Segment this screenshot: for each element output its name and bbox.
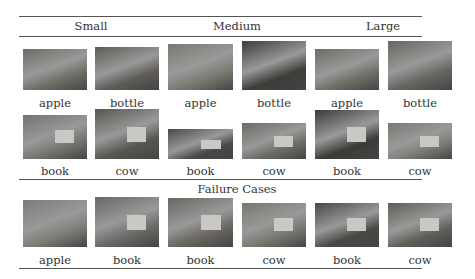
bottom-rule — [19, 268, 422, 269]
photo-bottle — [388, 41, 452, 90]
photo-apple — [315, 49, 379, 90]
header-rule — [19, 36, 422, 37]
adversarial-patch — [127, 127, 146, 142]
adversarial-patch — [347, 127, 366, 142]
section-rule — [19, 179, 422, 180]
photo-book — [95, 197, 159, 247]
adversarial-patch — [201, 215, 221, 230]
photo-apple — [23, 200, 87, 247]
adversarial-patch — [347, 218, 366, 231]
image-label: book — [92, 253, 162, 267]
photo-apple — [168, 44, 233, 90]
image-label: book — [166, 253, 236, 267]
failure-cases-title: Failure Cases — [164, 182, 310, 196]
photo-cow — [242, 203, 306, 247]
image-label: apple — [20, 253, 90, 267]
photo-apple — [23, 49, 87, 90]
image-label: cow — [385, 164, 455, 178]
adversarial-patch — [201, 140, 221, 149]
header-large: Large — [310, 19, 456, 33]
adversarial-patch — [274, 218, 293, 231]
image-label: book — [312, 164, 382, 178]
header-small: Small — [18, 19, 164, 33]
top-rule-right — [221, 16, 422, 17]
photo-bottle — [95, 47, 159, 90]
photo-cow — [242, 123, 306, 159]
image-label: bottle — [92, 96, 162, 110]
adversarial-patch — [55, 130, 74, 143]
photo-book — [315, 203, 379, 247]
image-label: apple — [20, 96, 90, 110]
image-label: cow — [239, 253, 309, 267]
photo-book — [315, 110, 379, 159]
image-label: apple — [312, 96, 382, 110]
image-label: book — [166, 164, 236, 178]
photo-book — [168, 129, 233, 159]
image-label: book — [20, 164, 90, 178]
image-label: cow — [385, 253, 455, 267]
adversarial-patch — [420, 136, 439, 147]
photo-cow — [95, 109, 159, 159]
top-rule — [19, 16, 221, 17]
adversarial-patch — [127, 215, 146, 230]
photo-book — [168, 198, 233, 247]
image-label: bottle — [239, 96, 309, 110]
photo-book — [23, 115, 87, 159]
image-label: cow — [92, 164, 162, 178]
adversarial-patch — [274, 136, 293, 147]
image-label: book — [312, 253, 382, 267]
photo-bottle — [242, 41, 306, 90]
header-medium: Medium — [164, 19, 310, 33]
image-label: cow — [239, 164, 309, 178]
image-label: apple — [166, 96, 236, 110]
photo-cow — [388, 203, 452, 247]
adversarial-patch — [420, 218, 439, 231]
image-label: bottle — [385, 96, 455, 110]
photo-cow — [388, 123, 452, 159]
